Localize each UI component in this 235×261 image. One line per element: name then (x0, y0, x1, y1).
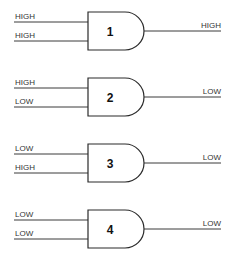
gate-1-and-symbol (88, 12, 144, 50)
gate-1-output-label: HIGH (201, 21, 221, 30)
gate-3-input-a-label: LOW (15, 144, 34, 153)
and-gate-diagram: HIGH HIGH 1 HIGH HIGH LOW 2 LOW LOW HIGH… (0, 0, 235, 261)
gate-3-and-symbol (88, 144, 144, 182)
gate-4-input-a-label: LOW (15, 210, 34, 219)
gate-3: LOW HIGH 3 LOW (14, 144, 221, 182)
gate-1-input-a-label: HIGH (15, 12, 35, 21)
gate-1: HIGH HIGH 1 HIGH (14, 12, 221, 50)
gate-4-and-symbol (88, 210, 144, 248)
gate-4-output-label: LOW (203, 219, 222, 228)
gate-2: HIGH LOW 2 LOW (14, 78, 221, 116)
gate-4: LOW LOW 4 LOW (14, 210, 221, 248)
gate-1-input-b-label: HIGH (15, 31, 35, 40)
gate-2-number: 2 (107, 91, 114, 105)
gate-1-number: 1 (107, 25, 114, 39)
gate-2-output-label: LOW (203, 87, 222, 96)
gate-2-input-a-label: HIGH (15, 78, 35, 87)
gate-3-input-b-label: HIGH (15, 163, 35, 172)
gate-3-number: 3 (107, 157, 114, 171)
gate-4-number: 4 (107, 223, 114, 237)
gate-2-and-symbol (88, 78, 144, 116)
gate-3-output-label: LOW (203, 153, 222, 162)
gate-4-input-b-label: LOW (15, 229, 34, 238)
gate-2-input-b-label: LOW (15, 97, 34, 106)
